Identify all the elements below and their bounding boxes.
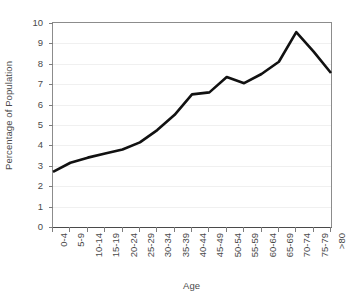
- x-axis-tick-mark: [226, 227, 227, 232]
- y-axis-tick-label: 6: [38, 98, 43, 109]
- x-axis-tick-label: 25-29: [145, 233, 157, 277]
- x-axis-tick-mark: [261, 227, 262, 232]
- y-axis-tick-mark: [49, 207, 53, 208]
- x-axis-tick-label: 40-44: [197, 233, 209, 277]
- y-axis-tick-label: 7: [38, 78, 43, 89]
- y-axis-tick-label: 5: [38, 119, 43, 130]
- y-axis-tick-mark: [49, 105, 53, 106]
- y-axis-tick-label: 8: [38, 57, 43, 68]
- x-axis-title: Age: [52, 280, 331, 291]
- x-axis-tick-label: 20-24: [128, 233, 140, 277]
- y-axis-tick-label: 9: [38, 37, 43, 48]
- x-axis-tick-mark: [330, 227, 331, 232]
- x-axis-tick-mark: [122, 227, 123, 232]
- x-axis-tick-label: 30-34: [162, 233, 174, 277]
- x-axis-tick-label: 45-49: [214, 233, 226, 277]
- x-axis-tick-mark: [69, 227, 70, 232]
- x-axis-tick-mark: [295, 227, 296, 232]
- y-axis-tick-label: 1: [38, 200, 43, 211]
- y-axis-tick-mark: [49, 125, 53, 126]
- x-axis-tick-label: 35-39: [180, 233, 192, 277]
- x-axis-tick-mark: [174, 227, 175, 232]
- y-axis-tick-mark: [49, 166, 53, 167]
- x-axis-tick-mark: [191, 227, 192, 232]
- y-axis-tick-label: 4: [38, 139, 43, 150]
- x-axis-tick-label: 65-69: [284, 233, 296, 277]
- x-axis-tick-mark: [208, 227, 209, 232]
- y-axis-tick-mark: [49, 64, 53, 65]
- y-axis-tick-mark: [49, 23, 53, 24]
- y-axis-tick-labels: 012345678910: [18, 22, 48, 226]
- x-axis-tick-mark: [313, 227, 314, 232]
- x-axis-tick-mark: [104, 227, 105, 232]
- series-line-chart: [53, 23, 331, 227]
- x-axis-tick-label: 15-19: [110, 233, 122, 277]
- y-axis-tick-mark: [49, 145, 53, 146]
- x-axis-tick-label: 0-4: [58, 233, 70, 277]
- x-axis-tick-mark: [52, 227, 53, 232]
- x-axis-tick-mark: [156, 227, 157, 232]
- y-axis-tick-label: 0: [38, 221, 43, 232]
- y-axis-title: Percentage of Population: [0, 0, 18, 230]
- x-axis-tick-mark: [139, 227, 140, 232]
- x-axis-tick-mark: [87, 227, 88, 232]
- y-axis-tick-mark: [49, 186, 53, 187]
- y-axis-tick-mark: [49, 43, 53, 44]
- y-axis-tick-label: 2: [38, 180, 43, 191]
- chart-container: Percentage of Population 012345678910 0-…: [0, 0, 356, 301]
- series-line-population: [53, 32, 331, 172]
- y-axis-title-label: Percentage of Population: [4, 60, 15, 169]
- x-axis-tick-marks: [52, 227, 331, 232]
- plot-area: [52, 22, 332, 228]
- y-axis-tick-mark: [49, 84, 53, 85]
- x-axis-tick-mark: [278, 227, 279, 232]
- x-axis-tick-label: >80: [336, 233, 348, 277]
- x-axis-tick-label: 75-79: [319, 233, 331, 277]
- x-axis-tick-label: 70-74: [301, 233, 313, 277]
- x-axis-tick-label: 55-59: [249, 233, 261, 277]
- x-axis-tick-label: 60-64: [267, 233, 279, 277]
- x-axis-tick-mark: [243, 227, 244, 232]
- x-axis-tick-label: 50-54: [232, 233, 244, 277]
- y-axis-tick-label: 3: [38, 159, 43, 170]
- x-axis-tick-label: 10-14: [93, 233, 105, 277]
- y-axis-tick-label: 10: [32, 17, 43, 28]
- x-axis-tick-label: 5-9: [75, 233, 87, 277]
- x-axis-tick-labels: 0-45-910-1415-1920-2425-2930-3435-3940-4…: [52, 233, 331, 277]
